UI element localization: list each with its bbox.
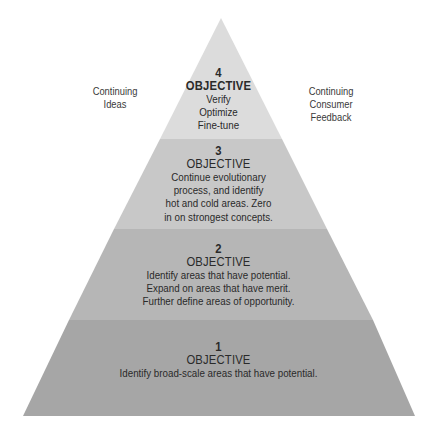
level-1-text: 1 OBJECTIVE Identify broad-scale areas t… — [0, 341, 437, 380]
level-line: in on strongest concepts. — [33, 211, 404, 224]
level-3-text: 3 OBJECTIVE Continue evolutionary proces… — [0, 145, 437, 224]
level-2-text: 2 OBJECTIVE Identify areas that have pot… — [0, 243, 437, 309]
level-line: Identify broad-scale areas that have pot… — [33, 367, 404, 380]
level-4-text: 4 OBJECTIVE Verify Optimize Fine-tune — [0, 67, 437, 133]
level-line: hot and cold areas. Zero — [33, 197, 404, 210]
level-line: Expand on areas that have merit. — [33, 282, 404, 295]
level-line: Identify areas that have potential. — [33, 269, 404, 282]
level-heading: OBJECTIVE — [22, 158, 415, 171]
level-line: Fine-tune — [33, 119, 404, 132]
level-line: Continue evolutionary — [33, 171, 404, 184]
level-heading: OBJECTIVE — [22, 80, 415, 93]
level-line: Further define areas of opportunity. — [33, 295, 404, 308]
level-heading: OBJECTIVE — [22, 354, 415, 367]
level-line: process, and identify — [33, 184, 404, 197]
level-line: Verify — [33, 93, 404, 106]
level-heading: OBJECTIVE — [22, 256, 415, 269]
level-line: Optimize — [33, 106, 404, 119]
